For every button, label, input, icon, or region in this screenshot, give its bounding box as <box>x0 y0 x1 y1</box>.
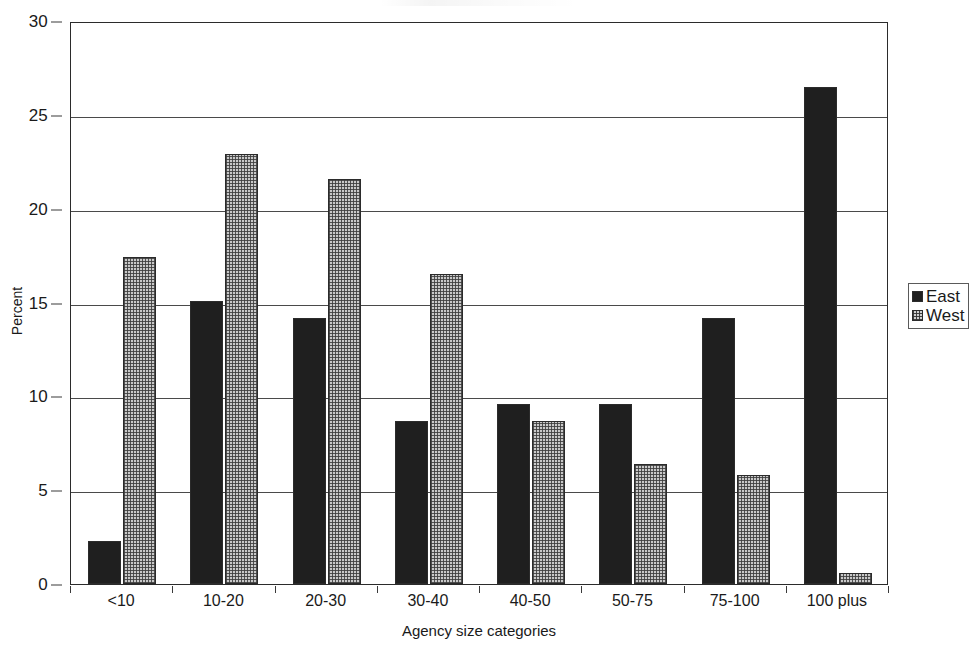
plot-area <box>70 22 888 585</box>
bar-chart: 051015202530 Percent <1010-2020-3030-404… <box>0 0 973 646</box>
bar-group <box>787 23 889 584</box>
x-tick-label: 40-50 <box>479 592 581 620</box>
bar-west <box>430 274 463 584</box>
legend-swatch-west-icon <box>912 310 923 321</box>
y-axis-title: Percent <box>9 271 25 351</box>
bar-east <box>293 318 326 584</box>
legend-item: West <box>912 306 964 325</box>
x-tick-label: <10 <box>70 592 172 620</box>
legend-item: East <box>912 287 964 306</box>
bar-east <box>702 318 735 584</box>
y-tick-label: 25 <box>29 106 48 126</box>
bar-west <box>532 421 565 584</box>
y-tick-label: 10 <box>29 387 48 407</box>
x-tick-label: 100 plus <box>786 592 888 620</box>
x-axis-title: Agency size categories <box>70 622 888 639</box>
scan-artifact <box>380 0 580 6</box>
x-tick-label: 50-75 <box>581 592 683 620</box>
bar-east <box>497 404 530 584</box>
bar-east <box>190 301 223 584</box>
bar-west <box>225 154 258 584</box>
y-tick-label: 0 <box>38 575 48 595</box>
legend-swatch-east-icon <box>912 291 923 302</box>
x-tick-label: 10-20 <box>172 592 274 620</box>
bar-west <box>839 573 872 584</box>
y-tick-label: 20 <box>29 200 48 220</box>
bar-group <box>378 23 480 584</box>
bar-group <box>685 23 787 584</box>
y-tick-mark <box>51 491 62 492</box>
bar-west <box>328 179 361 584</box>
bar-east <box>599 404 632 584</box>
x-axis-labels: <1010-2020-3030-4040-5050-7575-100100 pl… <box>70 592 888 620</box>
bars-layer <box>71 23 887 584</box>
bar-east <box>88 541 121 584</box>
x-tick-label: 30-40 <box>377 592 479 620</box>
bar-west <box>737 475 770 584</box>
y-tick-mark <box>51 585 62 586</box>
bar-west <box>123 257 156 584</box>
y-tick-label: 5 <box>38 481 48 501</box>
bar-west <box>634 464 667 584</box>
x-tick-label: 75-100 <box>684 592 786 620</box>
y-tick-mark <box>51 115 62 116</box>
x-tick-mark <box>888 586 889 593</box>
y-tick-label: 30 <box>29 12 48 32</box>
y-tick-mark <box>51 22 62 23</box>
bar-group <box>276 23 378 584</box>
bar-group <box>582 23 684 584</box>
y-tick-label: 15 <box>29 294 48 314</box>
x-tick-label: 20-30 <box>275 592 377 620</box>
bar-group <box>480 23 582 584</box>
bar-group <box>71 23 173 584</box>
bar-east <box>395 421 428 584</box>
y-tick-mark <box>51 209 62 210</box>
bar-group <box>173 23 275 584</box>
legend: EastWest <box>908 283 969 329</box>
y-tick-mark <box>51 303 62 304</box>
y-tick-mark <box>51 397 62 398</box>
legend-label: East <box>926 288 960 305</box>
bar-east <box>804 87 837 584</box>
legend-label: West <box>926 307 964 324</box>
